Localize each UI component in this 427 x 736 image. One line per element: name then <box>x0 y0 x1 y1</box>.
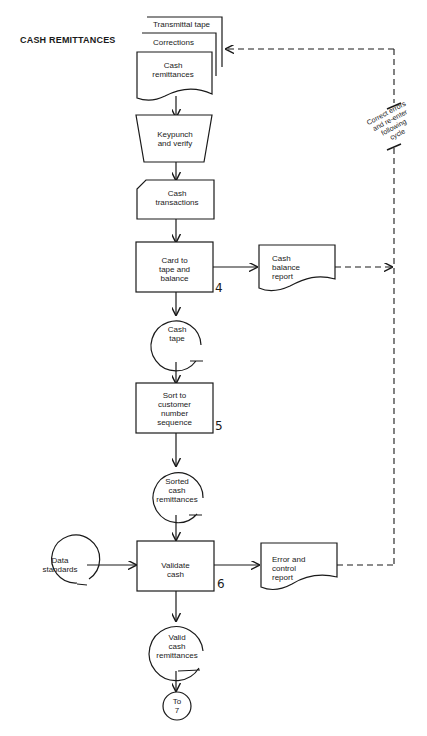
step-number-5: 5 <box>215 419 223 433</box>
label-line: Cash <box>152 325 202 334</box>
diagram-title: CASH REMITTANCES <box>20 35 116 45</box>
cash-tape-label: Cash tape <box>152 325 202 343</box>
label-line: report <box>272 272 332 281</box>
label-line: Data <box>35 556 85 565</box>
label-line: report <box>272 573 334 582</box>
label-line: remittances <box>146 651 208 660</box>
label-line: transactions <box>140 198 214 207</box>
label-line: Validate <box>137 561 214 570</box>
cash-remittances-label: Cash remittances <box>140 61 206 79</box>
label-line: Keypunch <box>140 130 210 139</box>
label-line: Card to <box>136 256 213 265</box>
label-line: 7 <box>163 706 191 715</box>
label-line: Error and <box>272 555 334 564</box>
label-line: and verify <box>140 139 210 148</box>
label-line: Sort to <box>136 391 213 400</box>
label-line: number <box>136 409 213 418</box>
step-number-6: 6 <box>217 577 225 591</box>
label-line: sequence <box>136 418 213 427</box>
label-line: customer <box>136 400 213 409</box>
sorted-cash-label: Sorted cash remittances <box>148 477 206 504</box>
label-line: tape and <box>136 265 213 274</box>
label-line: standards <box>35 565 85 574</box>
valid-cash-label: Valid cash remittances <box>146 633 208 660</box>
validate-label: Validate cash <box>137 561 214 579</box>
corrections-label: Corrections <box>153 38 213 47</box>
label-line: cash <box>137 570 214 579</box>
keypunch-label: Keypunch and verify <box>140 130 210 148</box>
label-line: Cash <box>140 189 214 198</box>
step-number-4: 4 <box>215 281 223 295</box>
label-line: tape <box>152 334 202 343</box>
label-line: cash <box>148 486 206 495</box>
flowchart-canvas <box>0 0 427 736</box>
label-line: remittances <box>140 70 206 79</box>
transmittal-tape-label: Transmittal tape <box>153 20 223 29</box>
label-line: Valid <box>146 633 208 642</box>
label-line: Sorted <box>148 477 206 486</box>
label-line: remittances <box>148 495 206 504</box>
label-line: cash <box>146 642 208 651</box>
label-line: balance <box>136 274 213 283</box>
cash-balance-report-label: Cash balance report <box>272 254 332 281</box>
label-line: balance <box>272 263 332 272</box>
connector-label: To 7 <box>163 697 191 715</box>
label-line: Cash <box>140 61 206 70</box>
sort-label: Sort to customer number sequence <box>136 391 213 427</box>
label-line: Cash <box>272 254 332 263</box>
data-standards-label: Data standards <box>35 556 85 574</box>
cash-transactions-label: Cash transactions <box>140 189 214 207</box>
label-line: To <box>163 697 191 706</box>
label-line: control <box>272 564 334 573</box>
card-to-tape-label: Card to tape and balance <box>136 256 213 283</box>
error-report-label: Error and control report <box>272 555 334 582</box>
